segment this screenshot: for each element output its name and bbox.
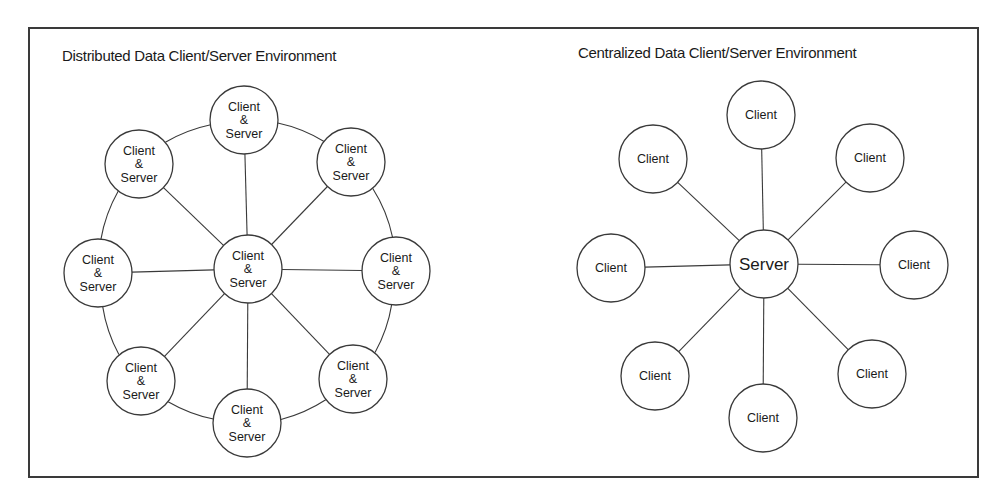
client-node-right: Client — [880, 231, 948, 299]
ring-link — [101, 191, 118, 239]
ring-link — [168, 402, 213, 419]
node-label: & — [137, 374, 146, 388]
server-client-link — [763, 298, 764, 384]
client-node-lower-left: Client — [621, 342, 689, 410]
server-client-link — [788, 182, 846, 240]
client-server-node-lower-left: Client&Server — [107, 347, 175, 415]
ring-link — [278, 123, 324, 141]
node-label: Client — [82, 253, 114, 267]
node-label: Server — [121, 171, 158, 185]
node-label: Server — [80, 280, 117, 294]
node-label: Server — [739, 255, 789, 274]
ring-link — [281, 399, 326, 419]
centralized-nodes: ClientClientClientClientClientClientClie… — [577, 81, 948, 452]
node-label: & — [244, 262, 253, 276]
node-label: Client — [745, 108, 777, 122]
client-server-node-center: Client&Server — [214, 235, 282, 303]
client-node-bottom: Client — [729, 384, 797, 452]
ring-link — [103, 306, 119, 354]
node-label: Client — [337, 359, 369, 373]
node-label: Server — [378, 278, 415, 292]
node-label: Server — [333, 169, 370, 183]
node-label: & — [347, 155, 356, 169]
node-label: & — [135, 157, 144, 171]
client-server-node-right: Client&Server — [362, 237, 430, 305]
client-server-node-upper-left: Client&Server — [105, 130, 173, 198]
node-label: Client — [125, 361, 157, 375]
node-label: Client — [747, 411, 779, 425]
node-label: Server — [230, 276, 267, 290]
node-label: & — [392, 264, 401, 278]
node-label: Client — [228, 100, 260, 114]
spoke-link — [132, 270, 214, 272]
spoke-link — [164, 294, 224, 357]
client-server-node-top: Client&Server — [210, 86, 278, 154]
ring-link — [373, 188, 393, 237]
client-server-node-bottom: Client&Server — [213, 389, 281, 457]
client-node-lower-right: Client — [838, 340, 906, 408]
server-client-link — [788, 288, 848, 349]
node-label: Server — [226, 127, 263, 141]
node-label: Server — [229, 430, 266, 444]
distributed-nodes: Client&ServerClient&ServerClient&ServerC… — [64, 86, 430, 457]
node-label: Client — [231, 403, 263, 417]
node-label: & — [240, 113, 249, 127]
node-label: Client — [856, 367, 888, 381]
spoke-link — [272, 186, 328, 244]
spoke-link — [247, 303, 248, 389]
node-label: & — [243, 416, 252, 430]
server-client-link — [798, 264, 880, 265]
spoke-link — [271, 294, 329, 355]
node-label: Client — [639, 369, 671, 383]
server-client-link — [645, 265, 730, 267]
node-label: Client — [123, 144, 155, 158]
node-label: Client — [637, 152, 669, 166]
client-node-upper-right: Client — [836, 124, 904, 192]
server-client-link — [679, 288, 741, 351]
node-label: Server — [335, 386, 372, 400]
node-label: & — [349, 372, 358, 386]
node-label: Client — [232, 249, 264, 263]
client-server-node-lower-right: Client&Server — [319, 345, 387, 413]
node-label: Client — [898, 258, 930, 272]
node-label: Client — [854, 151, 886, 165]
client-server-node-upper-right: Client&Server — [317, 128, 385, 196]
node-label: Client — [380, 251, 412, 265]
client-node-upper-left: Client — [619, 125, 687, 193]
client-server-node-left: Client&Server — [64, 239, 132, 307]
spoke-link — [245, 154, 247, 235]
server-node: Server — [730, 230, 798, 298]
ring-link — [165, 125, 210, 143]
node-label: Client — [595, 261, 627, 275]
node-label: & — [94, 266, 103, 280]
client-node-top: Client — [727, 81, 795, 149]
diagrams-canvas: Client&ServerClient&ServerClient&ServerC… — [0, 0, 1007, 499]
node-label: Server — [123, 388, 160, 402]
client-node-left: Client — [577, 234, 645, 302]
server-client-link — [762, 149, 764, 230]
ring-link — [375, 304, 392, 352]
server-client-link — [678, 182, 740, 240]
spoke-link — [282, 269, 362, 270]
node-label: Client — [335, 142, 367, 156]
spoke-link — [163, 188, 223, 246]
